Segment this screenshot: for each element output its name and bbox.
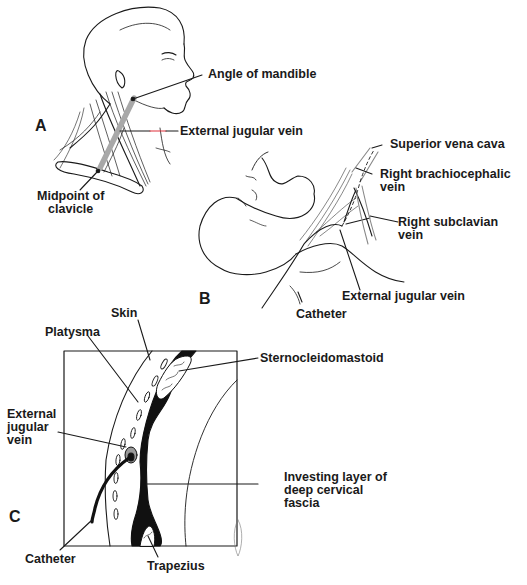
label-platysma: Platysma: [45, 326, 100, 339]
panel-b-drawing: [199, 145, 404, 308]
panel-letter-a: A: [35, 117, 47, 135]
label-catheter-c: Catheter: [25, 553, 76, 566]
panel-letter-c: C: [9, 508, 21, 526]
label-angle-of-mandible: Angle of mandible: [208, 68, 316, 81]
label-external-jugular-vein-c: External jugular vein: [7, 408, 56, 447]
anatomy-figure: A B C Angle of mandible External jugular…: [0, 0, 527, 585]
label-external-jugular-vein-b: External jugular vein: [342, 290, 465, 303]
label-midpoint-of-clavicle: Midpoint of clavicle: [37, 190, 104, 216]
panel-a-drawing: [54, 7, 194, 193]
label-superior-vena-cava: Superior vena cava: [390, 138, 505, 151]
label-trapezius: Trapezius: [147, 560, 205, 573]
panel-letter-b: B: [199, 290, 211, 308]
label-external-jugular-vein-a: External jugular vein: [180, 125, 303, 138]
label-skin: Skin: [111, 307, 137, 320]
label-right-subclavian-vein: Right subclavian vein: [398, 216, 498, 242]
label-catheter-b: Catheter: [296, 308, 347, 321]
panel-c-drawing: [58, 320, 258, 557]
label-right-brachiocephalic-vein: Right brachiocephalic vein: [380, 168, 511, 194]
label-sternocleidomastoid: Sternocleidomastoid: [260, 352, 384, 365]
label-investing-layer-deep-cervical-fascia: Investing layer of deep cervical fascia: [284, 471, 387, 510]
